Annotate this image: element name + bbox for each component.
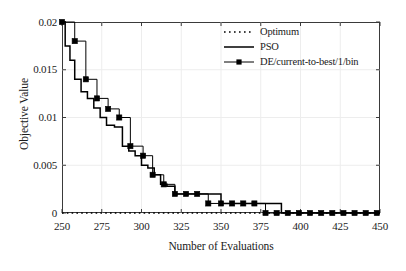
legend-label: PSO — [256, 41, 279, 53]
y-tick-label-0: 0 — [52, 208, 57, 219]
y-tick-label-1: 0.005 — [33, 160, 57, 171]
y-tick-label-4: 0.02 — [39, 17, 57, 28]
legend-item-0[interactable]: Optimum — [222, 24, 382, 39]
y-tick-label-3: 0.015 — [33, 64, 57, 75]
chart-legend: OptimumPSODE/current-to-best/1/bin — [222, 24, 382, 69]
legend-label: DE/current-to-best/1/bin — [256, 56, 358, 68]
x-tick-label-8: 450 — [355, 221, 405, 232]
legend-swatch-icon — [222, 25, 256, 39]
legend-item-2[interactable]: DE/current-to-best/1/bin — [222, 54, 382, 69]
x-axis-title: Number of Evaluations — [62, 240, 380, 252]
legend-item-1[interactable]: PSO — [222, 39, 382, 54]
chart-figure: 00.0050.010.0150.02 25027530032535037540… — [0, 0, 406, 271]
legend-label: Optimum — [256, 26, 299, 38]
legend-swatch-icon — [222, 55, 256, 69]
y-tick-label-2: 0.01 — [39, 112, 57, 123]
y-axis-title: Objective Value — [18, 54, 30, 174]
legend-swatch-icon — [222, 40, 256, 54]
